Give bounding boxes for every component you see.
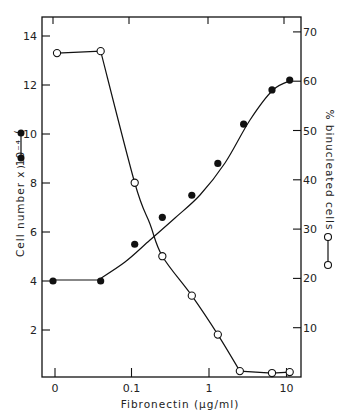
right-axis-title-group: % binucleated cells [324,110,336,269]
left-y-tick-label: 4 [30,275,37,288]
right-y-tick-label: 50 [303,125,317,138]
x-axis-title: Fibronectin (µg/ml) [121,398,240,410]
right-y-tick-label: 20 [303,272,317,285]
binucleated-point [97,48,104,55]
cell-number-point [159,214,166,221]
cell-number-point [188,192,195,199]
open-circle-legend-icon [325,234,332,269]
right-y-tick-label: 60 [303,75,317,88]
cell-number-point [131,241,138,248]
cell-number-point [240,121,247,128]
left-y-tick-label: 12 [23,79,37,92]
cell-number-curve [55,80,292,280]
cell-number-point [49,277,56,284]
binucleated-point [268,369,275,376]
right-y-tick-label: 70 [303,26,317,39]
right-y-tick-label: 30 [303,223,317,236]
left-axis-title-group: Cell number x 10⁻⁴ ( ) [13,130,26,257]
left-y-tick-label: 2 [30,324,37,337]
series-points [49,48,293,377]
right-y-tick-label: 40 [303,174,317,187]
right-y-axis: 10203040506070 [293,26,317,335]
binucleated-point [53,49,60,56]
binucleated-point [286,368,293,375]
plot-border [42,17,301,377]
cell-number-point [286,77,293,84]
series-curves [55,51,292,373]
y-axis-title-right: % binucleated cells [324,110,336,231]
x-tick-label: 1 [206,382,213,395]
binucleated-point [188,292,195,299]
binucleated-curve [57,51,290,373]
plot-frame [42,17,301,377]
left-y-tick-label: 6 [30,226,37,239]
binucleated-point [214,331,221,338]
right-y-tick-label: 10 [303,322,317,335]
svg-text:): ) [16,165,26,169]
chart: 00.1110 2468101214 10203040506070 Fibron… [0,0,342,414]
x-tick-label: 10 [280,382,294,395]
cell-number-point [214,160,221,167]
x-tick-label: 0 [52,382,59,395]
cell-number-point [97,277,104,284]
x-tick-label: 0.1 [123,382,141,395]
left-y-axis: 2468101214 [23,30,50,337]
cell-number-point [268,86,275,93]
left-y-tick-label: 8 [30,177,37,190]
binucleated-point [159,253,166,260]
left-y-tick-label: 14 [23,30,37,43]
binucleated-point [131,179,138,186]
binucleated-point [236,367,243,374]
